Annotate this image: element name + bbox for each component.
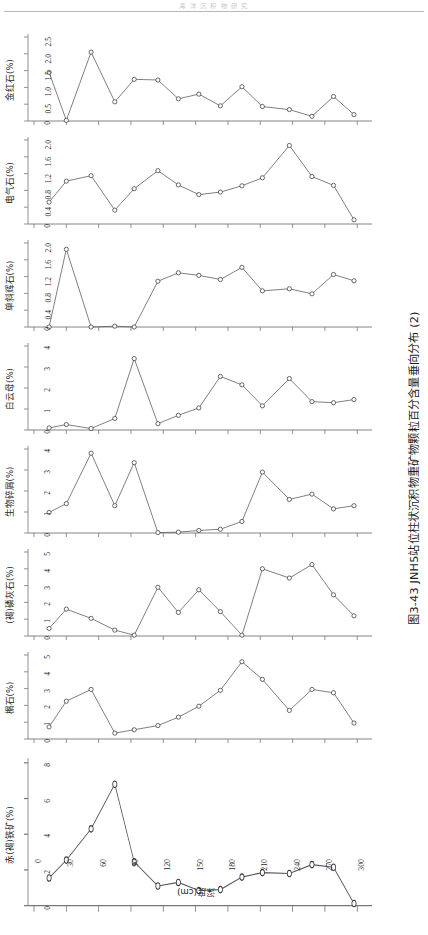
y-axis-label: 电气石(%) <box>0 131 18 234</box>
x-tick-label: 150 <box>196 859 205 871</box>
x-tick-label: 90 <box>131 859 140 867</box>
data-point-marker <box>132 325 136 329</box>
running-head: 海 洋 沉 积 物 研 究 <box>0 1 428 10</box>
data-point-marker <box>113 731 117 735</box>
data-point-marker <box>331 691 335 695</box>
data-point-marker <box>176 413 180 417</box>
y-tick-label: 4 <box>44 346 53 350</box>
data-point-marker <box>287 376 291 380</box>
figure-page: 海 洋 沉 积 物 研 究 金红石(%)00.51.01.52.02.5电气石(… <box>0 0 428 935</box>
y-tick-label: 1 <box>44 619 53 623</box>
y-axis-label: (褐)磷灰石(%) <box>0 543 18 646</box>
data-point-marker <box>89 451 93 455</box>
data-point-marker <box>310 292 314 296</box>
data-point-marker <box>64 118 68 122</box>
data-point-marker <box>132 728 136 732</box>
y-tick-label: 1.2 <box>44 174 53 184</box>
y-tick-label: 3 <box>44 586 53 590</box>
data-point-marker <box>113 628 117 632</box>
y-axis-label-text: 生物碎屑(%) <box>3 466 15 517</box>
data-point-marker <box>132 633 136 637</box>
data-point-marker <box>352 721 356 725</box>
plot-area: 00.40.81.21.62.0 <box>18 234 374 337</box>
data-point-marker <box>352 504 356 508</box>
y-tick-label: 2.0 <box>44 140 53 150</box>
x-tick-label: 240 <box>293 859 302 871</box>
y-axis-label: 生物碎屑(%) <box>0 440 18 543</box>
y-tick-label: 2 <box>44 602 53 606</box>
y-axis-label: 榍石(%) <box>0 646 18 749</box>
chart-panel: 白云母(%)01234 <box>0 337 396 440</box>
y-axis-label-text: 白云母(%) <box>3 368 15 410</box>
plot-canvas <box>18 28 374 131</box>
data-point-marker <box>240 265 244 269</box>
header-rule <box>4 11 424 12</box>
y-tick-label: 1 <box>44 722 53 726</box>
data-point-marker <box>260 404 264 408</box>
data-point-marker <box>89 325 93 329</box>
data-point-marker <box>89 50 93 54</box>
data-point-marker <box>176 271 180 275</box>
data-point-marker <box>260 176 264 180</box>
data-point-marker <box>197 588 201 592</box>
y-tick-label: 4 <box>44 449 53 453</box>
data-point-marker <box>240 383 244 387</box>
data-point-marker <box>197 704 201 708</box>
y-tick-label: 0.4 <box>44 310 53 320</box>
data-point-marker <box>331 183 335 187</box>
data-point-marker <box>156 279 160 283</box>
y-tick-label: 4 <box>44 569 53 573</box>
data-point-marker <box>197 273 201 277</box>
data-series-line <box>49 453 354 532</box>
data-point-marker <box>240 85 244 89</box>
data-point-marker <box>132 77 136 81</box>
data-point-marker <box>240 519 244 523</box>
data-point-marker <box>287 708 291 712</box>
data-point-marker <box>132 357 136 361</box>
data-series-line <box>49 145 354 219</box>
y-axis-label: 白云母(%) <box>0 337 18 440</box>
data-point-marker <box>64 699 68 703</box>
data-point-marker <box>89 826 93 832</box>
data-point-marker <box>352 614 356 618</box>
data-point-marker <box>197 528 201 532</box>
data-point-marker <box>352 397 356 401</box>
data-series-line <box>49 565 354 636</box>
plot-canvas <box>18 234 374 337</box>
data-point-marker <box>156 585 160 589</box>
x-tick-label: 300 <box>357 859 366 871</box>
data-point-marker <box>331 94 335 98</box>
y-tick-label: 2 <box>44 491 53 495</box>
y-tick-label: 0 <box>44 121 53 125</box>
y-tick-label: 0 <box>44 636 53 640</box>
data-point-marker <box>218 610 222 614</box>
data-series-line <box>49 52 354 120</box>
data-point-marker <box>176 530 180 534</box>
chart-stack: 金红石(%)00.51.01.52.02.5电气石(%)00.40.81.21.… <box>0 28 396 921</box>
data-point-marker <box>156 530 160 534</box>
data-point-marker <box>260 104 264 108</box>
data-point-marker <box>176 715 180 719</box>
plot-canvas <box>18 646 374 749</box>
y-axis-label: 金红石(%) <box>0 28 18 131</box>
plot-area: 00.51.01.52.02.5 <box>18 28 374 131</box>
data-point-marker <box>287 497 291 501</box>
data-point-marker <box>113 100 117 104</box>
y-tick-label: 3 <box>44 689 53 693</box>
plot-area: 012345 <box>18 543 374 646</box>
data-point-marker <box>260 470 264 474</box>
y-tick-label: 0 <box>44 224 53 228</box>
data-point-marker <box>218 527 222 531</box>
data-point-marker <box>132 187 136 191</box>
chart-svg <box>18 646 374 749</box>
plot-canvas <box>18 440 374 543</box>
data-point-marker <box>240 633 244 637</box>
data-point-marker <box>64 247 68 251</box>
data-point-marker <box>156 169 160 173</box>
data-point-marker <box>287 107 291 111</box>
chart-svg <box>18 337 374 440</box>
y-tick-label: 0.8 <box>44 293 53 303</box>
data-point-marker <box>218 374 222 378</box>
data-point-marker <box>156 78 160 82</box>
data-point-marker <box>310 114 314 118</box>
